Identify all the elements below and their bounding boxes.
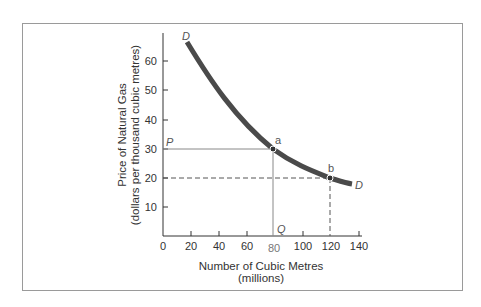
demand-chart: 10 20 30 40 50 60 0 20 40 60 80 100 120 …	[0, 0, 481, 307]
y-tick-20: 20	[145, 172, 157, 184]
y-tick-labels: 10 20 30 40 50 60	[145, 55, 157, 213]
y-axis-title: Price of Natural Gas	[116, 83, 128, 187]
p-label: P	[166, 136, 174, 148]
x-tick-20: 20	[185, 240, 197, 252]
x-axis-subtitle: (millions)	[238, 272, 284, 284]
point-b	[327, 175, 333, 181]
y-tick-60: 60	[145, 55, 157, 67]
x-tick-80: 80	[268, 242, 280, 254]
y-tick-40: 40	[145, 114, 157, 126]
point-b-label: b	[328, 162, 334, 174]
x-tick-120: 120	[322, 240, 340, 252]
y-tick-30: 30	[145, 143, 157, 155]
q-label: Q	[277, 223, 286, 235]
y-ticks	[163, 61, 168, 207]
point-a	[270, 146, 276, 152]
x-ticks	[191, 231, 359, 236]
x-tick-40: 40	[213, 240, 225, 252]
curve-label-start: D	[182, 30, 190, 42]
y-axis-subtitle: (dollars per thousand cubic metres)	[129, 45, 141, 225]
x-tick-100: 100	[294, 240, 312, 252]
x-tick-0: 0	[160, 240, 166, 252]
point-a-label: a	[275, 134, 282, 146]
y-tick-10: 10	[145, 201, 157, 213]
x-tick-labels: 0 20 40 60 80 100 120 140	[160, 240, 368, 254]
x-tick-140: 140	[350, 240, 368, 252]
x-axis-title: Number of Cubic Metres	[199, 260, 324, 272]
x-tick-60: 60	[241, 240, 253, 252]
y-tick-50: 50	[145, 84, 157, 96]
curve-label-end: D	[355, 179, 363, 191]
